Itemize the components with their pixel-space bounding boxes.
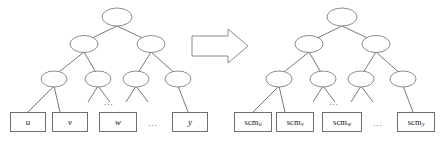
leaf-label-scm-y-base: scm [408, 118, 422, 127]
leaf-box-y: y [172, 112, 208, 132]
tree-node-root-left [102, 8, 132, 26]
tree-node-right-l2b [362, 36, 390, 53]
tree-node-right-l3d [390, 71, 416, 87]
leaf-box-scm-w: scmw [322, 112, 362, 132]
tree-node-left-l3c [123, 71, 149, 87]
tree-node-left-l2a [70, 36, 98, 53]
leaf-label-w: w [115, 118, 121, 127]
right-tree-leaf-ellipsis: ... [373, 119, 383, 128]
tree-node-right-l3a [266, 71, 292, 87]
leaf-box-w: w [99, 112, 137, 132]
leaf-label-scm-w-subscript: w [347, 121, 351, 127]
tree-node-right-l3c [348, 71, 374, 87]
leaf-label-scm-v-subscript: v [301, 121, 304, 127]
left-tree-subtree-ellipsis: ... [104, 98, 114, 107]
tree-node-left-l3b [85, 71, 111, 87]
leaf-box-scm-y: scmy [397, 112, 435, 132]
leaf-box-scm-u: scmu [234, 112, 272, 132]
leaf-box-u: u [10, 112, 46, 132]
tree-node-right-l3b [310, 71, 336, 87]
left-tree-nodes [41, 8, 191, 87]
left-tree-leaf-ellipsis: ... [148, 119, 158, 128]
tree-node-root-right [327, 8, 357, 26]
leaf-label-scm-v-base: scm [287, 118, 301, 127]
tree-node-left-l3d [165, 71, 191, 87]
leaf-label-u: u [26, 118, 31, 127]
leaf-box-v: v [52, 112, 88, 132]
right-tree-nodes [266, 8, 416, 87]
transformation-arrow-shape [192, 29, 248, 63]
leaf-box-scm-v: scmv [276, 112, 314, 132]
right-tree-subtree-ellipsis: ... [329, 98, 339, 107]
tree-node-right-l2a [295, 36, 323, 53]
leaf-label-scm-u-base: scm [245, 118, 259, 127]
tree-node-left-l3a [41, 71, 67, 87]
figure-canvas: u v ... w ... y scmu scmv ... scmw ... s… [0, 0, 444, 145]
leaf-label-scm-y-subscript: y [422, 121, 425, 127]
leaf-label-v: v [68, 118, 72, 127]
leaf-label-scm-u-subscript: u [259, 121, 262, 127]
leaf-label-scm-w-base: scm [333, 118, 347, 127]
leaf-label-y: y [188, 118, 192, 127]
tree-node-left-l2b [137, 36, 165, 53]
